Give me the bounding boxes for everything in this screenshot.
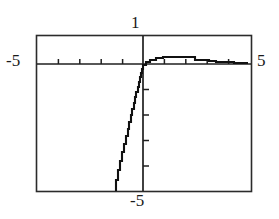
x-max-label: 5 — [257, 52, 266, 69]
y-max-label: 1 — [131, 14, 140, 31]
data-series-curve — [116, 57, 248, 191]
y-min-label: -5 — [130, 192, 144, 209]
x-min-label: -5 — [6, 52, 20, 69]
plot-frame — [37, 36, 252, 192]
plot-canvas — [0, 0, 279, 219]
y-axis-ticks-negative — [143, 90, 149, 167]
function-graph-figure: 1 -5 5 -5 — [0, 0, 279, 219]
